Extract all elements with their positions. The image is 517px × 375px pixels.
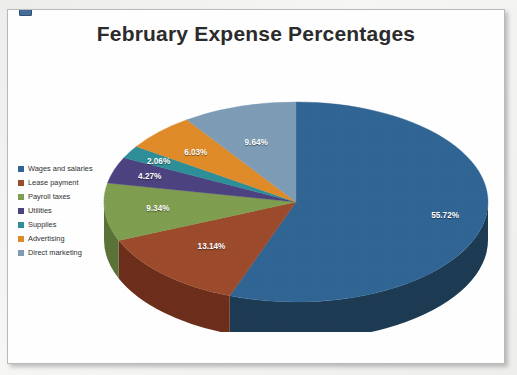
- screenshot-root: February Expense Percentages Wages and s…: [0, 0, 517, 375]
- pie-chart: 55.72%13.14%9.34%4.27%2.06%6.03%9.64%: [96, 82, 496, 332]
- legend-swatch-icon: [18, 250, 24, 256]
- legend-swatch-icon: [18, 180, 24, 186]
- legend-item-label: Lease payment: [28, 179, 79, 186]
- pie-stage: [96, 82, 496, 332]
- legend-item-label: Payroll taxes: [28, 193, 70, 200]
- legend-item-label: Wages and salaries: [28, 165, 93, 172]
- chart-title: February Expense Percentages: [8, 22, 504, 46]
- scan-artifact-icon: [19, 9, 32, 16]
- pie-top-faces: [104, 102, 488, 302]
- legend-swatch-icon: [18, 166, 24, 172]
- legend-swatch-icon: [18, 208, 24, 214]
- legend-swatch-icon: [18, 222, 24, 228]
- chart-card: February Expense Percentages Wages and s…: [7, 9, 505, 364]
- legend-item-label: Direct marketing: [28, 249, 82, 256]
- pie-svg: [96, 82, 496, 332]
- legend-item-label: Supplies: [28, 221, 56, 228]
- legend-swatch-icon: [18, 194, 24, 200]
- legend-item-label: Utilities: [28, 207, 52, 214]
- legend-item-label: Advertising: [28, 235, 65, 242]
- legend-swatch-icon: [18, 236, 24, 242]
